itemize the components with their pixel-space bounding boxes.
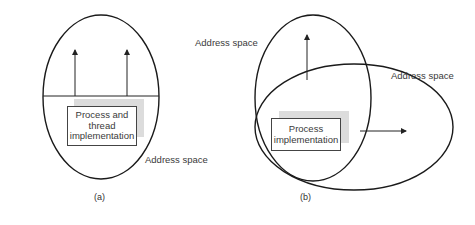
box-line-3: implementation	[70, 131, 134, 142]
caption-a: (a)	[94, 192, 105, 202]
address-space-label-a: Address space	[145, 154, 208, 165]
panel-b-graphics	[255, 15, 453, 190]
caption-b: (b)	[300, 192, 311, 202]
panel-a-graphics	[43, 15, 159, 179]
address-space-label-b1: Address space	[195, 37, 258, 48]
box-label-b: Process implementation	[274, 124, 338, 145]
address-space-ellipse-a	[43, 15, 159, 179]
address-space-ellipse-b1	[255, 15, 371, 181]
box-line-1: Process	[274, 124, 338, 135]
box-label-a: Process and thread implementation	[70, 110, 134, 142]
process-thread-implementation-box: Process and thread implementation	[67, 106, 137, 146]
process-implementation-box: Process implementation	[271, 118, 341, 151]
box-line-2: implementation	[274, 135, 338, 146]
address-space-label-b2: Address space	[391, 70, 454, 81]
